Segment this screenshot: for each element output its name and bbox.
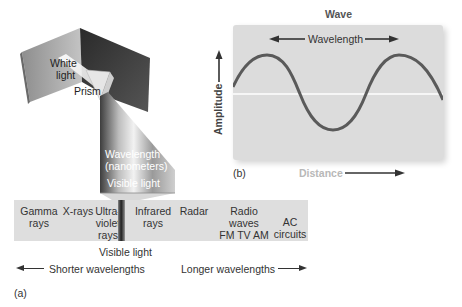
radio-line1: Radio waves [214, 205, 274, 229]
right-screen [80, 28, 150, 112]
longer-arrow-line [278, 268, 300, 270]
cone-visible-light-label: Visible light [107, 178, 160, 190]
spectrum-item-ac: AC circuits [270, 216, 310, 240]
spectrum-item-infrared: Infrared rays [129, 205, 177, 229]
white-light-label: White light [50, 58, 77, 81]
wavelength-nm-label-line1: Wavelength [105, 149, 167, 161]
prism-label: Prism [74, 86, 101, 98]
sine-wave [233, 55, 443, 130]
amplitude-arrow-icon [214, 50, 224, 82]
ac-line1: AC [270, 216, 310, 228]
gamma-line1: Gamma [17, 205, 61, 217]
radio-line2: FM TV AM [214, 229, 274, 241]
spectrum-item-gamma: Gamma rays [17, 205, 61, 229]
radar-line1: Radar [176, 205, 212, 217]
longer-wavelengths-label: Longer wavelengths [181, 263, 275, 275]
ac-line2: circuits [270, 228, 310, 240]
visible-light-label: Visible light [99, 246, 152, 258]
distance-label: Distance [299, 167, 343, 179]
spectrum-item-radio: Radio waves FM TV AM [214, 205, 274, 241]
white-light-label-line2: light [50, 70, 77, 82]
infrared-line1: Infrared [129, 205, 177, 217]
gamma-line2: rays [17, 217, 61, 229]
wave-title: Wave [325, 8, 352, 20]
longer-arrow-icon [299, 265, 307, 271]
wavelength-label: Wavelength [308, 33, 363, 45]
wavelength-nm-label: Wavelength (nanometers) [105, 149, 167, 172]
infrared-line2: rays [129, 217, 177, 229]
wavelength-arrow-left-icon [269, 36, 279, 43]
white-light-label-line1: White [50, 58, 77, 70]
shorter-arrow-line [22, 268, 44, 270]
wavelength-nm-label-line2: (nanometers) [105, 161, 167, 173]
shorter-wavelengths-label: Shorter wavelengths [49, 263, 145, 275]
em-spectrum-band: Gamma rays X-rays Ultra- violet rays Inf… [14, 200, 308, 241]
panel-tag-b: (b) [233, 167, 246, 179]
wave-panel: Wavelength [233, 25, 443, 160]
amplitude-label: Amplitude [212, 84, 224, 135]
panel-tag-a: (a) [14, 287, 27, 299]
wave-plot [233, 25, 443, 160]
prism-illustration [0, 0, 200, 200]
distance-arrow-icon [345, 168, 405, 178]
visible-light-stripe [118, 200, 125, 241]
wavelength-arrow-right-icon [389, 36, 399, 43]
spectrum-item-radar: Radar [176, 205, 212, 217]
